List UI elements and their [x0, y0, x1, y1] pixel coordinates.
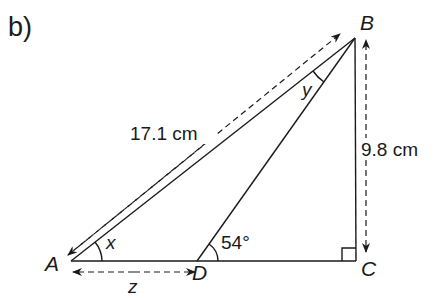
vertex-label-D: D: [192, 261, 207, 284]
part-label: b): [8, 12, 32, 42]
vertex-label-A: A: [43, 252, 59, 275]
side-BC: [355, 38, 356, 261]
triangle-diagram: b) B A D C 17.1 cm 9.8 cm 54° x y z: [0, 0, 448, 298]
length-label-AB: 17.1 cm: [130, 123, 198, 144]
vertex-label-B: B: [360, 11, 374, 34]
vertex-label-C: C: [361, 257, 377, 280]
unknown-angle-y: y: [300, 79, 313, 100]
angle-arc-y: [313, 71, 324, 82]
angle-arc-x: [95, 242, 102, 261]
right-angle-marker: [342, 248, 356, 261]
side-BD: [197, 38, 355, 261]
unknown-length-z: z: [127, 276, 138, 297]
side-AB: [71, 38, 355, 261]
unknown-angle-x: x: [105, 232, 117, 253]
length-label-BC: 9.8 cm: [361, 139, 418, 160]
angle-label-54: 54°: [221, 232, 250, 253]
angle-arc-54: [209, 244, 218, 261]
